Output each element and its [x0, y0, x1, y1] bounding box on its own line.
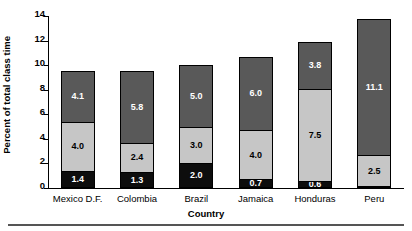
bar-segment[interactable]: 2.4 [120, 143, 154, 172]
bar-segment-value-label: 1.4 [71, 175, 84, 184]
bar-segment[interactable]: 3.0 [179, 127, 213, 164]
bar-segment[interactable]: 1.3 [120, 172, 154, 188]
bar-segment-value-label: 2.5 [368, 167, 381, 176]
x-axis-line [48, 188, 404, 189]
y-axis-tick-label: 12 [34, 34, 45, 44]
x-axis-tick-label: Peru [329, 194, 412, 204]
bar-segment-value-label: 0.0 [368, 186, 381, 188]
bar-segment-value-label: 4.1 [71, 92, 84, 101]
bar-segment[interactable]: 0.7 [239, 179, 273, 188]
bar-stack[interactable]: 5.03.02.0 [179, 65, 213, 188]
bar-segment[interactable]: 7.5 [298, 89, 332, 181]
bar-segment-value-label: 5.8 [131, 103, 144, 112]
bar-segment-value-label: 4.0 [71, 142, 84, 151]
bar-segment[interactable]: 5.8 [120, 71, 154, 142]
bar-segment[interactable]: 6.0 [239, 57, 273, 131]
bar-segment[interactable]: 0.0 [357, 186, 391, 188]
bar-segment-value-label: 4.0 [249, 151, 262, 160]
bar-segment-value-label: 3.8 [309, 61, 322, 70]
bar-segment[interactable]: 3.8 [298, 42, 332, 89]
y-axis-tick-label: 6 [40, 107, 45, 117]
bar-segment[interactable]: 0.6 [298, 181, 332, 188]
y-axis-tick-label: 4 [40, 132, 45, 142]
y-axis-tick-label: 8 [40, 83, 45, 93]
bar-stack[interactable]: 11.12.50.0 [357, 19, 391, 188]
bar-segment[interactable]: 11.1 [357, 19, 391, 155]
y-axis-tick-label: 2 [40, 156, 45, 166]
bar-segment[interactable]: 2.0 [179, 163, 213, 188]
y-axis-title-text: Percent of total class time [2, 36, 12, 154]
bar-segment-value-label: 3.0 [190, 141, 203, 150]
plot-area: 02468101214 4.14.01.45.82.41.35.03.02.06… [48, 16, 404, 188]
bar-stack[interactable]: 3.87.50.6 [298, 42, 332, 188]
bar-segment[interactable]: 5.0 [179, 65, 213, 126]
bar-segment-value-label: 1.3 [131, 176, 144, 185]
bar-stack[interactable]: 4.14.01.4 [61, 71, 95, 188]
bar-segment-value-label: 0.7 [249, 179, 262, 188]
bar-segment[interactable]: 1.4 [61, 171, 95, 188]
bar-segment-value-label: 7.5 [309, 131, 322, 140]
y-axis-line [48, 16, 49, 188]
y-axis-tick-label: 14 [34, 9, 45, 19]
bar-segment-value-label: 6.0 [249, 89, 262, 98]
bar-segment-value-label: 5.0 [190, 92, 203, 101]
bar-segment-value-label: 2.0 [190, 171, 203, 180]
bar-segment[interactable]: 4.1 [61, 71, 95, 121]
y-axis-tick-label: 0 [40, 181, 45, 191]
bar-segment-value-label: 11.1 [366, 83, 383, 92]
bottom-divider [8, 224, 404, 226]
bar-segment[interactable]: 4.0 [239, 130, 273, 179]
bar-stack[interactable]: 6.04.00.7 [239, 57, 273, 188]
x-axis-title: Country [0, 209, 412, 219]
y-axis-title: Percent of total class time [0, 0, 14, 190]
bar-segment-value-label: 2.4 [131, 153, 144, 162]
bar-segment[interactable]: 2.5 [357, 155, 391, 186]
stacked-bar-chart: Percent of total class time 02468101214 … [0, 0, 412, 231]
bar-segment-value-label: 0.6 [309, 181, 322, 188]
bar-stack[interactable]: 5.82.41.3 [120, 71, 154, 188]
y-axis-tick-label: 10 [34, 58, 45, 68]
bar-segment[interactable]: 4.0 [61, 122, 95, 171]
